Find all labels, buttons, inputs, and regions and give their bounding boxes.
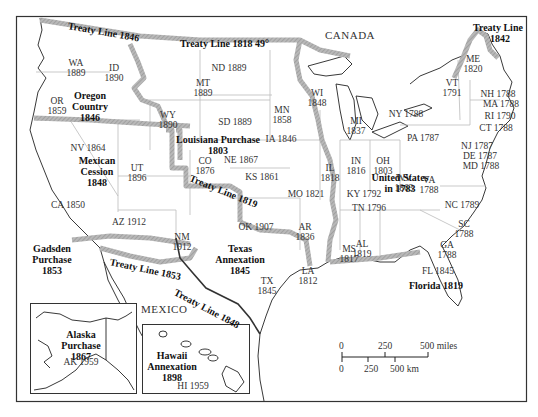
acquisition-label-line: 1853 [32,265,71,276]
state-year: 1859 [48,106,67,116]
state-abbr: CA 1850 [51,200,85,210]
state-abbr: SC [455,219,474,229]
country-label-mexico: MEXICO [141,304,187,314]
state-label: ME1820 [464,54,483,74]
state-label: OK 1907 [238,222,273,232]
state-abbr: NE 1867 [224,155,258,165]
state-label: AL1819 [353,239,372,259]
state-label: DE 1787 [463,151,497,161]
state-label: VT1791 [443,78,462,98]
state-abbr: ID [105,63,124,73]
state-label: NV 1864 [71,143,106,153]
state-abbr: ME [464,54,483,64]
state-label: SC1788 [455,219,474,239]
state-label: GA1788 [438,240,457,260]
state-label: CO1876 [196,156,215,176]
acquisition-label-line: 1846 [72,112,108,123]
state-abbr: AR [296,222,315,232]
state-label: AR1836 [296,222,315,242]
state-year: 1819 [353,249,372,259]
state-year: 1889 [67,68,86,78]
country-label-canada: CANADA [325,30,375,40]
state-abbr: UT [128,163,147,173]
state-abbr: SD 1889 [218,117,252,127]
state-label: ID1890 [105,63,124,83]
acquisition-label-line: Annexation [147,361,196,372]
state-year: 1812 [299,276,318,286]
state-label: PA 1787 [407,133,439,143]
state-label: MT1889 [194,78,213,98]
acquisition-label-louisiana: Louisiana Purchase1803 [176,134,260,156]
state-year: 1820 [464,64,483,74]
state-year: 1788 [438,250,457,260]
acquisition-label-line: Florida 1819 [409,280,463,291]
state-abbr: NM [173,232,192,242]
acquisition-label-line: 1803 [176,145,260,156]
state-label: WI1848 [308,88,327,108]
acquisition-label-line: Oregon [72,90,108,101]
state-abbr: NY 1788 [389,109,424,119]
state-abbr: TN 1796 [352,203,386,213]
state-label: NJ 1787 [461,141,493,151]
state-label: CT 1788 [479,123,512,133]
acquisition-label-line: 1867 [61,351,100,362]
state-abbr: WY [159,110,178,120]
state-year: 1848 [308,98,327,108]
state-abbr: AZ 1912 [112,217,146,227]
state-abbr: FL 1845 [422,266,454,276]
acquisition-label-line: Annexation [215,254,264,265]
state-year: 1858 [273,115,292,125]
state-abbr: NV 1864 [71,143,106,153]
state-label: ND 1889 [211,63,246,73]
treaty-line-label-t1842y: 1842 [490,33,510,44]
state-label: MD 1788 [463,161,500,171]
state-year: 1837 [347,126,366,136]
state-label: UT1896 [128,163,147,183]
state-abbr: IL [321,163,340,173]
state-year: 1889 [194,88,213,98]
acquisition-label-gadsden: GadsdenPurchase1853 [32,243,71,276]
state-abbr: MD 1788 [463,161,500,171]
state-abbr: NC 1789 [445,200,480,210]
acquisition-label-hawaii: HawaiiAnnexation1898 [147,350,196,383]
state-label: AZ 1912 [112,217,146,227]
state-label: TN 1796 [352,203,386,213]
state-year: 1890 [159,120,178,130]
scale-km-0: 0 [339,364,344,374]
state-label: MI1837 [347,116,366,136]
state-abbr: CT 1788 [479,123,512,133]
acquisition-label-line: 1898 [147,372,196,383]
state-label: NM1912 [173,232,192,252]
state-abbr: VT [443,78,462,88]
state-year: 1816 [347,166,366,176]
state-abbr: MO 1821 [288,189,325,199]
state-abbr: IA 1846 [266,134,297,144]
state-year: 1912 [173,242,192,252]
state-abbr: OR [48,96,67,106]
acquisition-label-line: Alaska [61,329,100,340]
acquisition-label-texas: TexasAnnexation1845 [215,243,264,276]
acquisition-label-line: United States [372,172,429,183]
state-abbr: MT [194,78,213,88]
acquisition-label-us1783: United Statesin 1783 [372,172,429,194]
state-year: 1791 [443,88,462,98]
state-label: NY 1788 [389,109,424,119]
acquisition-label-line: Country [72,101,108,112]
state-abbr: MI [347,116,366,126]
scale-miles-0: 0 [339,341,344,351]
state-label: KS 1861 [245,172,279,182]
state-abbr: PA 1787 [407,133,439,143]
state-abbr: GA [438,240,457,250]
scale-km-250: 250 [364,364,378,374]
scale-miles-500: 500 miles [420,341,457,351]
state-year: 1845 [258,286,277,296]
treaty-line-label-t1842: Treaty Line [473,22,523,33]
state-year: 1788 [455,229,474,239]
state-label: NE 1867 [224,155,258,165]
acquisition-label-line: 1848 [79,177,116,188]
state-abbr: RI 1790 [485,111,516,121]
scale-bar [342,352,428,362]
acquisition-label-line: Purchase [32,254,71,265]
acquisition-label-line: Gadsden [32,243,71,254]
acquisition-label-line: in 1783 [372,183,429,194]
